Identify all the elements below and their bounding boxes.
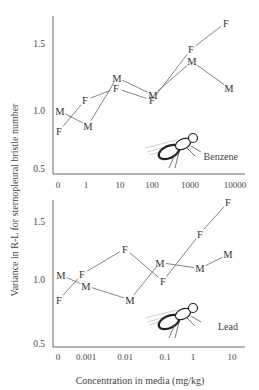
y-tick-label: 1.5	[33, 217, 45, 227]
data-point-M: M	[223, 249, 233, 260]
series-F-segment	[130, 253, 159, 278]
x-tick-label: 10000	[224, 180, 247, 190]
y-axis-label: Variance in R-L for sternopleural bristl…	[9, 103, 20, 297]
x-tick-label: 0.001	[76, 352, 96, 362]
series-M-segment	[158, 65, 188, 91]
series-M-segment	[122, 80, 147, 92]
x-tick-label: 1	[84, 180, 89, 190]
series-M-segment	[92, 288, 125, 298]
x-tick-label: 10	[116, 180, 126, 190]
data-point-F: F	[122, 244, 128, 255]
data-point-M: M	[187, 56, 197, 67]
series-F-segment	[156, 54, 188, 95]
series-F-segment	[167, 238, 197, 276]
x-tick-label: 0.01	[117, 352, 133, 362]
series-F-segment	[91, 90, 111, 98]
data-point-M: M	[155, 258, 165, 269]
y-tick-label: 1.0	[33, 275, 45, 285]
data-point-F: F	[197, 229, 203, 240]
fruit-fly-icon	[145, 304, 201, 339]
data-point-M: M	[112, 73, 122, 84]
x-axis-label: Concentration in media (mg/kg)	[76, 375, 205, 387]
y-tick-label: 1.5	[33, 39, 45, 49]
data-point-F: F	[160, 276, 166, 287]
series-F-segment	[87, 252, 120, 271]
chart-figure: Variance in R-L for sternopleural bristl…	[0, 0, 259, 390]
toxicant-label: Lead	[218, 321, 238, 332]
toxicant-label: Benzene	[204, 151, 239, 162]
data-point-F: F	[113, 83, 119, 94]
y-tick-label: 1.0	[33, 106, 45, 116]
x-tick-label: 0	[56, 180, 61, 190]
x-tick-label: 1000	[181, 180, 200, 190]
series-F-segment	[204, 207, 224, 229]
y-tick-label: 0.5	[33, 339, 45, 349]
x-tick-label: 0	[56, 352, 61, 362]
data-point-M: M	[81, 281, 91, 292]
series-F-segment	[196, 26, 221, 46]
series-M-segment	[91, 83, 114, 121]
benzene-chart: 0.51.01.50110100100010000FFFFFFMMMMMMBen…	[33, 16, 247, 190]
data-point-F: F	[82, 95, 88, 106]
data-point-F: F	[79, 269, 85, 280]
series-M-segment	[65, 114, 82, 123]
data-point-F: F	[188, 44, 194, 55]
lead-chart: 0.51.01.500.0010.010.1110FFFFFFMMMMMMLea…	[33, 197, 245, 362]
data-point-M: M	[195, 263, 205, 274]
data-point-M: M	[148, 90, 158, 101]
y-tick-label: 0.5	[33, 164, 45, 174]
series-M-segment	[205, 257, 222, 266]
data-point-F: F	[56, 126, 62, 137]
series-M-segment	[197, 65, 224, 85]
data-point-M: M	[56, 270, 66, 281]
x-tick-label: 0.1	[159, 352, 170, 362]
data-point-F: F	[56, 295, 62, 306]
x-tick-label: 1	[191, 352, 196, 362]
x-tick-label: 10	[228, 352, 238, 362]
fruit-fly-icon	[145, 134, 201, 169]
series-M-segment	[166, 263, 194, 267]
series-F-segment	[122, 90, 147, 98]
data-point-F: F	[225, 197, 231, 208]
series-M-segment	[134, 267, 156, 295]
data-point-M: M	[55, 106, 65, 117]
data-point-F: F	[223, 18, 229, 29]
data-point-M: M	[83, 121, 93, 132]
data-point-M: M	[125, 295, 135, 306]
x-tick-label: 100	[145, 180, 159, 190]
data-point-M: M	[224, 83, 234, 94]
series-F-segment	[63, 105, 81, 127]
